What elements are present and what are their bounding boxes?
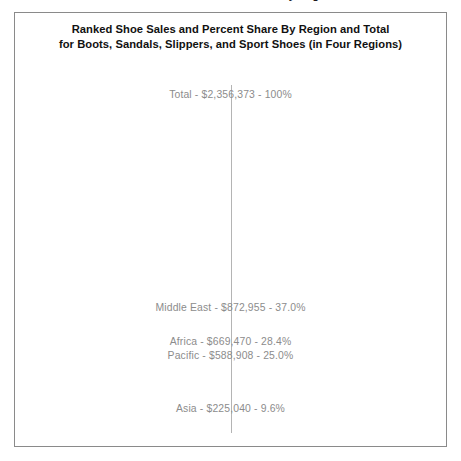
data-label-middle-east: Middle East - $872,955 - 37.0% [15, 302, 446, 314]
data-label-asia: Asia - $225,040 - 9.6% [15, 403, 446, 415]
data-label-total: Total - $2,356,373 - 100% [15, 89, 446, 101]
vertical-axis-line [231, 85, 232, 433]
chart-frame: Ranked Shoe Sales and Percent Share By R… [14, 12, 447, 447]
plot-area: Total - $2,356,373 - 100% Middle East - … [15, 13, 446, 446]
clipped-overflow-title: Ranked Shoe Sales and Percent Share By R… [0, 0, 461, 1]
data-label-africa: Africa - $669,470 - 28.4% [15, 336, 446, 348]
data-label-pacific: Pacific - $588,908 - 25.0% [15, 350, 446, 362]
